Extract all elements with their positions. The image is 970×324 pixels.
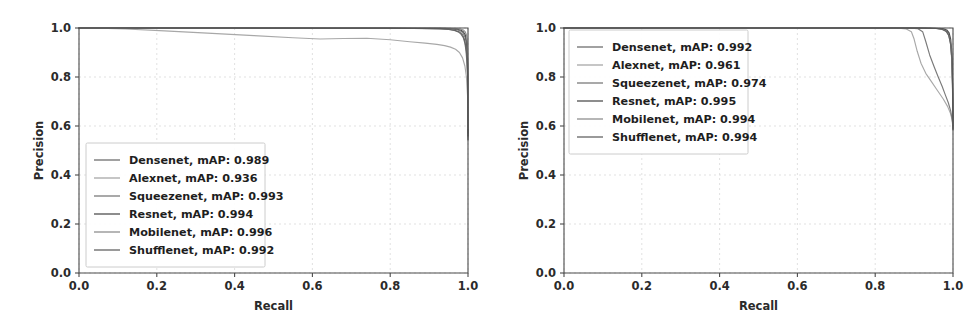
- curve-shufflenet: [79, 28, 468, 139]
- y-axis-title: Precision: [517, 121, 531, 181]
- curve-squeezenet: [79, 28, 468, 133]
- legend-label-shufflenet: Shufflenet, mAP: 0.992: [129, 244, 274, 257]
- x-tick-label: 0.8: [865, 279, 885, 293]
- legend-label-mobilenet: Mobilenet, mAP: 0.994: [612, 113, 756, 126]
- curve-mobilenet: [79, 28, 468, 128]
- curve-densenet: [79, 28, 468, 137]
- legend-label-resnet: Resnet, mAP: 0.995: [612, 95, 736, 108]
- legend: Densenet, mAP: 0.989Alexnet, mAP: 0.936S…: [86, 143, 284, 267]
- legend-label-mobilenet: Mobilenet, mAP: 0.996: [129, 226, 273, 239]
- x-tick-label: 0.6: [787, 279, 807, 293]
- x-tick-label: 0.4: [224, 279, 244, 293]
- curve-resnet: [79, 28, 468, 136]
- y-tick-label: 0.8: [51, 70, 71, 84]
- x-tick-label: 0.6: [302, 279, 322, 293]
- curve-alexnet: [79, 28, 468, 141]
- y-tick-label: 0.6: [51, 119, 71, 133]
- legend-label-densenet: Densenet, mAP: 0.989: [129, 154, 270, 167]
- legend: Densenet, mAP: 0.992Alexnet, mAP: 0.961S…: [569, 30, 767, 154]
- x-tick-label: 0.2: [632, 279, 652, 293]
- y-tick-label: 1.0: [51, 21, 71, 35]
- legend-label-shufflenet: Shufflenet, mAP: 0.994: [612, 131, 758, 144]
- chart-panel-left: 0.00.20.40.60.81.00.00.20.40.60.81.0Reca…: [0, 0, 485, 324]
- legend-label-squeezenet: Squeezenet, mAP: 0.993: [129, 190, 284, 203]
- legend-label-squeezenet: Squeezenet, mAP: 0.974: [612, 77, 767, 90]
- precision-recall-plot-left: 0.00.20.40.60.81.00.00.20.40.60.81.0Reca…: [0, 0, 485, 324]
- y-axis-title: Precision: [32, 121, 46, 181]
- y-tick-label: 1.0: [536, 21, 556, 35]
- y-tick-label: 0.4: [536, 168, 556, 182]
- x-tick-label: 1.0: [458, 279, 478, 293]
- y-tick-label: 0.0: [536, 266, 556, 280]
- legend-label-alexnet: Alexnet, mAP: 0.936: [129, 172, 258, 185]
- legend-label-densenet: Densenet, mAP: 0.992: [612, 41, 752, 54]
- y-tick-label: 0.4: [51, 168, 71, 182]
- x-tick-label: 0.2: [147, 279, 167, 293]
- precision-recall-plot-right: 0.00.20.40.60.81.00.00.20.40.60.81.0Reca…: [485, 0, 970, 324]
- chart-panel-right: 0.00.20.40.60.81.00.00.20.40.60.81.0Reca…: [485, 0, 970, 324]
- y-tick-label: 0.2: [536, 217, 556, 231]
- x-tick-label: 1.0: [943, 279, 963, 293]
- y-tick-label: 0.6: [536, 119, 556, 133]
- x-tick-label: 0.0: [69, 279, 89, 293]
- x-axis-title: Recall: [739, 299, 778, 313]
- x-tick-label: 0.4: [709, 279, 729, 293]
- y-tick-label: 0.2: [51, 217, 71, 231]
- x-tick-label: 0.8: [380, 279, 400, 293]
- x-tick-label: 0.0: [554, 279, 574, 293]
- legend-label-resnet: Resnet, mAP: 0.994: [129, 208, 253, 221]
- y-tick-label: 0.8: [536, 70, 556, 84]
- legend-label-alexnet: Alexnet, mAP: 0.961: [612, 59, 741, 72]
- y-tick-label: 0.0: [51, 266, 71, 280]
- precision-recall-figure: 0.00.20.40.60.81.00.00.20.40.60.81.0Reca…: [0, 0, 970, 324]
- x-axis-title: Recall: [254, 299, 293, 313]
